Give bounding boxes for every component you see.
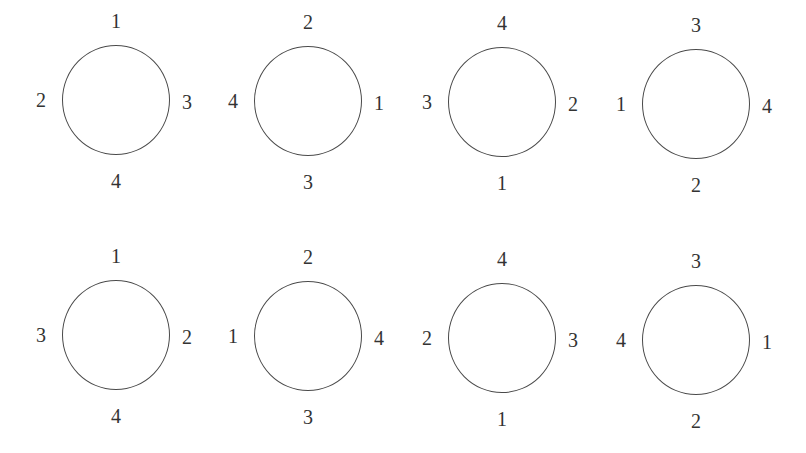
label-right: 2 — [177, 327, 197, 347]
label-top: 3 — [686, 251, 706, 271]
label-top: 2 — [298, 12, 318, 32]
circle-group-r1-c2: 2 4 1 3 — [229, 1, 389, 201]
label-right: 4 — [757, 96, 777, 116]
circle — [62, 45, 170, 155]
circle-group-r1-c3: 4 3 2 1 — [423, 2, 583, 202]
label-right: 1 — [369, 93, 389, 113]
label-left: 2 — [31, 90, 51, 110]
label-top: 2 — [298, 247, 318, 267]
label-bottom: 2 — [686, 411, 706, 431]
circle — [254, 46, 362, 156]
label-right: 3 — [563, 330, 583, 350]
label-bottom: 3 — [298, 172, 318, 192]
label-bottom: 4 — [106, 406, 126, 426]
circle — [448, 47, 556, 157]
label-left: 4 — [611, 330, 631, 350]
label-right: 1 — [757, 332, 777, 352]
circle — [448, 283, 556, 393]
circle — [254, 281, 362, 391]
label-bottom: 3 — [298, 407, 318, 427]
circle-group-r2-c2: 2 1 4 3 — [229, 236, 389, 436]
circle — [642, 285, 750, 395]
label-bottom: 1 — [492, 409, 512, 429]
circle-group-r2-c3: 4 2 3 1 — [423, 238, 583, 438]
circle-group-r2-c1: 1 3 2 4 — [37, 235, 197, 435]
label-left: 1 — [223, 326, 243, 346]
circle-group-r1-c1: 1 2 3 4 — [37, 0, 197, 200]
label-top: 3 — [686, 15, 706, 35]
label-right: 2 — [563, 94, 583, 114]
label-right: 3 — [177, 92, 197, 112]
circle — [642, 49, 750, 159]
circle-group-r2-c4: 3 4 1 2 — [617, 240, 777, 440]
label-top: 4 — [492, 249, 512, 269]
label-left: 4 — [223, 91, 243, 111]
label-left: 2 — [417, 328, 437, 348]
label-left: 1 — [611, 94, 631, 114]
circle-group-r1-c4: 3 1 4 2 — [617, 4, 777, 204]
label-top: 1 — [106, 11, 126, 31]
label-bottom: 2 — [686, 175, 706, 195]
label-bottom: 1 — [492, 173, 512, 193]
label-bottom: 4 — [106, 171, 126, 191]
label-left: 3 — [417, 92, 437, 112]
circle-arrangement-diagram: 1 2 3 4 2 4 1 3 4 3 2 1 3 1 4 2 1 3 2 4 … — [0, 0, 806, 453]
label-left: 3 — [31, 325, 51, 345]
label-top: 4 — [492, 13, 512, 33]
circle — [62, 280, 170, 390]
label-right: 4 — [369, 328, 389, 348]
label-top: 1 — [106, 246, 126, 266]
